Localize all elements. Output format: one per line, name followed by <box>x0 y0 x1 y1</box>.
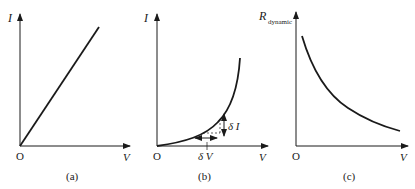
x-axis-label: V <box>400 151 408 163</box>
linear-curve <box>20 27 99 146</box>
origin-label: O <box>153 150 161 162</box>
panel-c: R dynamic O V (c) <box>258 9 408 183</box>
panel-caption: (b) <box>198 170 211 183</box>
x-axis-label: V <box>259 151 267 163</box>
origin-label: O <box>292 150 300 162</box>
panel-a: I O V (a) <box>7 11 131 183</box>
panel-caption: (a) <box>66 170 79 183</box>
y-axis-label: R <box>258 9 267 23</box>
y-axis-label: I <box>143 11 149 25</box>
figure-canvas: I O V (a) δ I δ V I O V (b) R <box>0 0 415 189</box>
delta-v-label: δ V <box>198 150 214 162</box>
y-axis-label: I <box>7 11 13 25</box>
panel-b: δ I δ V I O V (b) <box>143 11 268 183</box>
origin-label: O <box>16 150 24 162</box>
y-axis-label-subscript: dynamic <box>268 18 292 26</box>
panel-caption: (c) <box>343 170 356 183</box>
x-axis-label: V <box>123 151 131 163</box>
delta-v-arrow-icon <box>195 138 217 150</box>
decaying-curve <box>302 36 400 131</box>
delta-i-label: δ I <box>228 120 241 132</box>
exponential-curve <box>157 58 240 146</box>
